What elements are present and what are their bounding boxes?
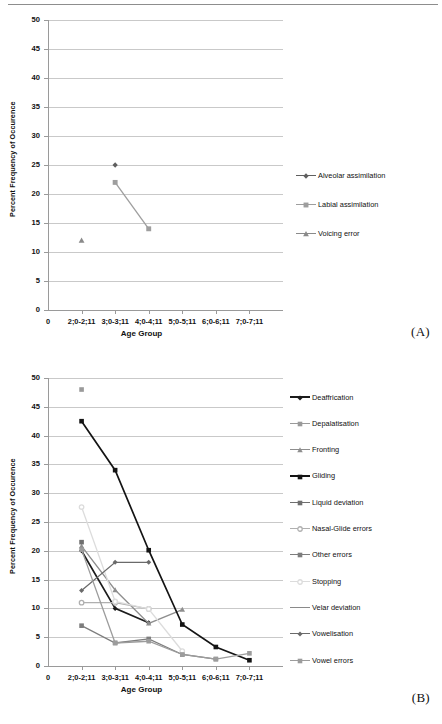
legend-item[interactable]: Deaffrication [290, 392, 353, 402]
legend-line-swatch [296, 204, 316, 205]
x-axis-title: Age Group [0, 329, 283, 338]
legend-marker-icon [294, 655, 306, 667]
data-point [146, 607, 150, 611]
legend-item[interactable]: Voicing error [296, 228, 360, 238]
data-point [79, 505, 83, 509]
data-point [112, 162, 117, 167]
legend-item[interactable]: Stopping [290, 576, 341, 586]
data-point [113, 641, 118, 646]
series-voicing-error [79, 238, 85, 243]
figure-panel-b: 0510152025303540455002;0-2;113;0-3;114;0… [0, 370, 442, 715]
legend-marker-icon [294, 497, 306, 509]
legend-marker-icon [300, 199, 312, 211]
legend-item[interactable]: Other errors [290, 550, 352, 560]
legend-label: Stopping [312, 577, 341, 586]
data-point [180, 652, 185, 657]
series-alveolar-assimilation [112, 162, 117, 167]
data-point [146, 560, 151, 565]
legend-label: Depalatisation [312, 419, 359, 428]
legend-item[interactable]: Vowel errors [290, 655, 353, 665]
legend-line-swatch [290, 581, 310, 582]
series-liquid-deviation [79, 540, 84, 545]
legend-line-swatch [296, 233, 316, 234]
legend-line-swatch [290, 607, 310, 608]
legend-item[interactable]: Nasal-Glide errors [290, 524, 372, 534]
data-point [180, 622, 185, 627]
legend-marker-icon [294, 418, 306, 430]
legend-line-swatch [290, 528, 310, 529]
series-labial-assimilation [113, 180, 151, 231]
data-point [247, 651, 252, 656]
data-point [79, 547, 84, 552]
legend-label: Vowel errors [312, 656, 353, 665]
legend-marker-icon [294, 576, 306, 588]
legend-label: Alveolar assimilation [318, 171, 385, 180]
series-gliding [79, 419, 251, 663]
legend-marker-icon [294, 444, 306, 456]
data-point [79, 419, 84, 424]
data-point [79, 600, 83, 604]
legend-label: Deaffrication [312, 393, 353, 402]
panel-label-a: (A) [411, 324, 430, 340]
data-point [146, 639, 151, 644]
legend-label: Fronting [312, 445, 339, 454]
legend-line-swatch [290, 502, 310, 503]
legend-item[interactable]: Depalatisation [290, 418, 359, 428]
legend-label: Voicing error [318, 229, 360, 238]
legend-line-swatch [290, 554, 310, 555]
series-layer [0, 10, 293, 320]
legend-label: Other errors [312, 550, 352, 559]
legend-marker-icon [300, 228, 312, 240]
data-point [79, 238, 85, 243]
series-vowel-errors [79, 547, 251, 661]
legend-marker-icon [294, 549, 306, 561]
data-point [180, 607, 185, 612]
series-depalatisation [79, 387, 84, 392]
legend-label: Labial assimilation [318, 200, 378, 209]
legend-label: Liquid deviation [312, 498, 363, 507]
legend-label: Gliding [312, 471, 335, 480]
data-point [113, 180, 118, 185]
legend-item[interactable]: Alveolar assimilation [296, 170, 385, 180]
legend-label: Nasal-Glide errors [312, 524, 372, 533]
data-point [214, 645, 219, 650]
data-point [146, 548, 151, 553]
legend-item[interactable]: Liquid deviation [290, 497, 363, 507]
series-layer [0, 370, 293, 676]
legend-item[interactable]: Gliding [290, 471, 335, 481]
data-point [113, 599, 117, 603]
panel-label-b: (B) [412, 690, 430, 706]
legend-item[interactable]: Fronting [290, 445, 339, 455]
legend-item[interactable]: Labial assimilation [296, 199, 378, 209]
legend-item[interactable]: Vowelisation [290, 629, 353, 639]
legend-line-swatch [290, 475, 310, 477]
legend-label: Vowelisation [312, 629, 353, 638]
figure-panel-a: 0510152025303540455002;0-2;113;0-3;114;0… [0, 10, 442, 360]
legend-line-swatch [290, 449, 310, 450]
legend-line-swatch [290, 396, 310, 398]
legend-marker-icon [294, 471, 306, 483]
legend-line-swatch [290, 423, 310, 424]
legend-label: Velar deviation [312, 603, 360, 612]
legend-marker-icon [300, 170, 312, 182]
header-rule [8, 4, 438, 5]
legend-line-swatch [296, 175, 316, 176]
data-point [79, 387, 84, 392]
data-point [146, 226, 151, 231]
data-point [214, 657, 219, 662]
legend-marker-icon [294, 628, 306, 640]
legend-item[interactable]: Velar deviation [290, 602, 360, 612]
data-point [113, 468, 118, 473]
legend-line-swatch [290, 660, 310, 661]
data-point [247, 658, 252, 663]
legend-line-swatch [290, 633, 310, 634]
legend-marker-icon [294, 392, 306, 404]
x-axis-title: Age Group [0, 685, 283, 694]
legend-marker-icon [294, 523, 306, 535]
data-point [79, 540, 84, 545]
data-point [79, 623, 84, 628]
